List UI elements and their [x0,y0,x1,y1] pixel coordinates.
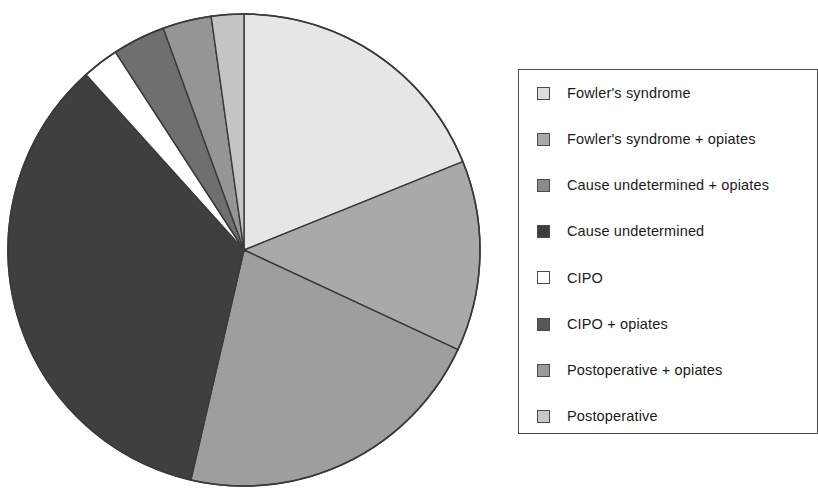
legend-item: Postoperative [537,407,658,425]
legend-item: Fowler's syndrome [537,84,691,102]
legend-swatch-icon [537,133,550,146]
legend-swatch-icon [537,410,550,423]
legend-swatch-icon [537,364,550,377]
legend-item-label: Cause undetermined + opiates [567,178,769,193]
legend-swatch-icon [537,271,550,284]
legend-item-label: Postoperative [567,409,658,424]
legend-item-label: CIPO + opiates [567,317,668,332]
legend-swatch-icon [537,225,550,238]
legend-item-label: CIPO [567,271,603,286]
pie-svg [0,0,492,492]
pie-plot-area [0,0,492,492]
legend-swatch-icon [537,318,550,331]
chart-legend: Fowler's syndromeFowler's syndrome + opi… [518,69,818,434]
legend-item-label: Postoperative + opiates [567,363,722,378]
legend-item: CIPO + opiates [537,315,668,333]
legend-item: Cause undetermined + opiates [537,176,769,194]
legend-item: Postoperative + opiates [537,361,722,379]
legend-item-label: Fowler's syndrome [567,86,691,101]
legend-swatch-icon [537,87,550,100]
legend-swatch-icon [537,179,550,192]
legend-item: CIPO [537,269,603,287]
legend-item-label: Fowler's syndrome + opiates [567,132,756,147]
legend-item: Fowler's syndrome + opiates [537,130,756,148]
legend-item-label: Cause undetermined [567,224,704,239]
legend-item: Cause undetermined [537,223,704,241]
